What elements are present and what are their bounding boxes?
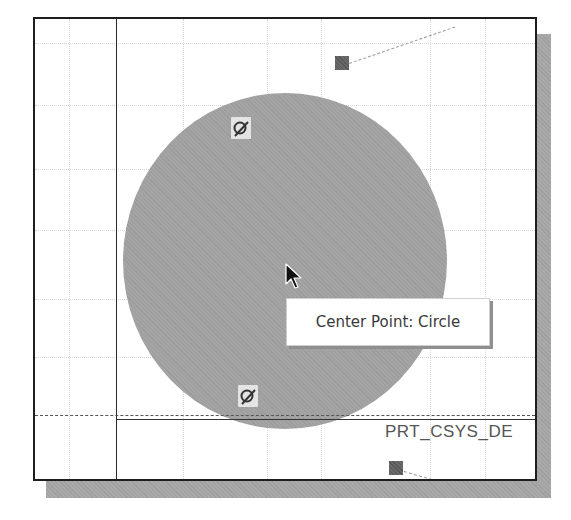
snap-tooltip: Center Point: Circle: [286, 298, 490, 346]
grid-line: [35, 43, 535, 44]
sketched-circle[interactable]: [123, 93, 447, 429]
datum-marker-top[interactable]: [335, 56, 349, 70]
csys-label: PRT_CSYS_DE: [385, 422, 513, 442]
vertical-reference-line[interactable]: [116, 19, 117, 479]
arrow-pointer-icon: [285, 263, 303, 291]
sketch-stage: PRT_CSYS_DE Center Point: Circle: [0, 0, 571, 520]
graphics-viewport[interactable]: PRT_CSYS_DE: [33, 17, 537, 481]
tangent-constraint-icon[interactable]: [231, 117, 251, 139]
horizontal-reference-line[interactable]: [116, 419, 535, 420]
marker-leader-line: [404, 471, 443, 481]
horizontal-centerline[interactable]: [35, 415, 535, 416]
tangent-constraint-icon[interactable]: [238, 385, 258, 407]
datum-marker-bottom[interactable]: [389, 461, 403, 475]
marker-leader-line: [349, 27, 455, 64]
grid-line: [69, 19, 70, 479]
tooltip-text: Center Point: Circle: [316, 313, 460, 331]
grid-line: [485, 19, 486, 479]
